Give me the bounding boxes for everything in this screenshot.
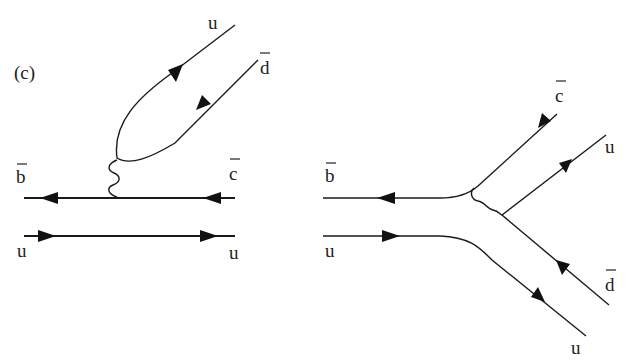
- label-u-in-left: u: [17, 240, 27, 261]
- wavy-exchange-line: [471, 188, 502, 215]
- label-u-out-left: u: [229, 242, 239, 263]
- arrow-down-u-out: [531, 287, 545, 302]
- label-bbar-left: b: [16, 166, 26, 187]
- arrow-up-u-right: [559, 159, 572, 173]
- dbar-out-line-right: [502, 215, 609, 305]
- label-u-top: u: [208, 12, 218, 33]
- arrow-right-u-left: [38, 230, 56, 242]
- arrow-left-bbar-right: [377, 192, 395, 204]
- right-diagram: b c u d u u: [323, 81, 616, 358]
- arrow-right-u-in: [382, 230, 400, 242]
- bbar-cbar-line-right: [323, 114, 557, 198]
- u-out-line-right: [502, 135, 606, 215]
- label-u-out-right: u: [571, 337, 581, 358]
- label-cbar-right: c: [555, 85, 563, 106]
- arrow-left-cbar: [203, 192, 221, 204]
- feynman-diagram-figure: (c) u d b c u u b c: [0, 0, 631, 363]
- arrow-down-dbar: [196, 95, 211, 110]
- u-in-out-line-right: [323, 236, 586, 336]
- qqbar-pair-line: [116, 25, 258, 161]
- w-boson-wavy-line: [109, 160, 119, 197]
- arrow-left-bbar: [40, 192, 58, 204]
- label-dbar-top: d: [260, 57, 270, 78]
- arrow-dbar-right: [556, 260, 570, 275]
- arrow-up-u: [168, 64, 183, 82]
- label-cbar-left: c: [229, 163, 237, 184]
- label-bbar-right: b: [325, 165, 335, 186]
- panel-label: (c): [14, 62, 35, 84]
- arrow-right-u-right: [200, 230, 218, 242]
- left-diagram: (c) u d b c u u: [14, 12, 270, 263]
- label-u-right-upper: u: [605, 136, 615, 157]
- label-u-in-right: u: [325, 240, 335, 261]
- label-dbar-right: d: [605, 274, 615, 295]
